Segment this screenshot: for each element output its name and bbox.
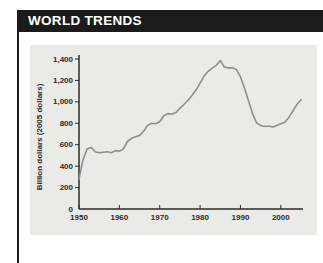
y-tick-label: 200 (60, 183, 74, 192)
y-tick-label: 1,000 (53, 97, 74, 106)
y-tick-label: 400 (60, 162, 74, 171)
x-tick-label: 1970 (151, 213, 169, 222)
trend-line (79, 61, 301, 179)
header-bar: WORLD TRENDS (19, 10, 323, 32)
y-tick-label: 800 (60, 119, 74, 128)
page-title: WORLD TRENDS (19, 10, 142, 32)
world-trends-figure: WORLD TRENDS 02004006008001,0001,2001,40… (0, 0, 323, 263)
world-trends-line-chart: 02004006008001,0001,2001,400195019601970… (30, 45, 317, 235)
chart-panel: 02004006008001,0001,2001,400195019601970… (30, 45, 317, 235)
x-tick-label: 1950 (70, 213, 88, 222)
x-tick-label: 1960 (110, 213, 128, 222)
left-border-rule (17, 10, 19, 263)
y-tick-label: 1,400 (53, 55, 74, 64)
x-tick-label: 2000 (272, 213, 290, 222)
y-axis-title: Billion dollars (2005 dollars) (35, 83, 44, 190)
y-tick-label: 1,200 (53, 76, 74, 85)
y-tick-label: 600 (60, 140, 74, 149)
x-tick-label: 1990 (232, 213, 250, 222)
x-tick-label: 1980 (191, 213, 209, 222)
